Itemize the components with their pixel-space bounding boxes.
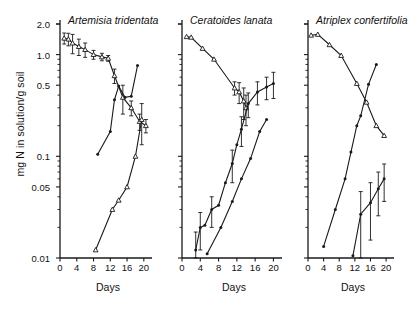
data-point [249, 157, 252, 160]
data-point [133, 154, 138, 158]
data-point [125, 185, 130, 189]
series-declining-series [62, 33, 149, 133]
data-point [240, 128, 243, 131]
data-point [113, 98, 116, 101]
data-point [359, 213, 362, 216]
data-point [96, 153, 99, 156]
panel-2 [178, 20, 282, 262]
data-point [100, 54, 105, 58]
data-point [83, 47, 88, 51]
data-point [241, 99, 246, 103]
series-declining-series [184, 34, 248, 125]
data-point [194, 248, 197, 251]
data-point [374, 123, 379, 127]
data-point [377, 187, 380, 190]
data-point [109, 130, 112, 133]
data-point [315, 32, 320, 36]
data-point [359, 114, 362, 117]
data-point [199, 226, 202, 229]
series-declining-series [309, 32, 387, 137]
data-point [354, 81, 359, 85]
data-point [375, 63, 378, 66]
data-point [189, 35, 194, 39]
data-point [235, 143, 238, 146]
series-rising-series-lower [93, 104, 144, 252]
data-point [383, 177, 386, 180]
data-point [258, 130, 261, 133]
data-point [355, 124, 358, 127]
data-point [76, 44, 81, 48]
data-point [369, 201, 372, 204]
series-rising-series-upper [194, 72, 276, 258]
data-point [62, 36, 67, 40]
data-point [130, 95, 133, 98]
series-rising-series-upper [322, 63, 378, 248]
data-point [93, 248, 98, 252]
data-point [367, 83, 370, 86]
data-point [219, 226, 222, 229]
data-point [66, 37, 71, 41]
data-point [136, 64, 139, 67]
data-point [351, 254, 354, 257]
data-point [217, 204, 220, 207]
data-point [210, 208, 213, 211]
data-point [123, 96, 126, 99]
series-rising-series-lower [351, 164, 386, 258]
data-point [184, 34, 189, 38]
data-point [256, 90, 259, 93]
data-point [112, 73, 117, 77]
data-point [344, 177, 347, 180]
data-point [265, 118, 268, 121]
panel-1 [56, 20, 152, 262]
data-point [224, 181, 227, 184]
series-rising-series-lower [206, 118, 268, 255]
data-point [247, 102, 250, 105]
data-point [272, 82, 275, 85]
data-point [231, 162, 234, 165]
data-point [91, 52, 96, 56]
data-point [106, 56, 111, 60]
data-point [117, 85, 120, 88]
data-point [231, 200, 234, 203]
data-point [240, 177, 243, 180]
data-point [206, 252, 209, 255]
data-point [309, 33, 314, 37]
data-point [349, 151, 352, 154]
data-point [334, 208, 337, 211]
data-point [203, 224, 206, 227]
data-point [322, 245, 325, 248]
panel-3 [304, 20, 394, 262]
data-point [265, 86, 268, 89]
